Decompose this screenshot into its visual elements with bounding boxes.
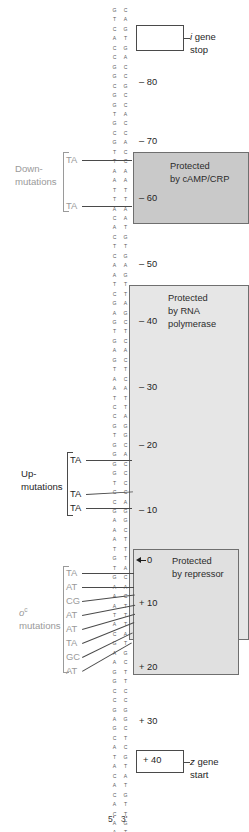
oc-mutation-5: AT	[66, 624, 77, 634]
z-gene-start-word: start	[190, 769, 208, 780]
tick-minus-70: – 70	[139, 136, 157, 146]
oc-mutation-2: AT	[66, 582, 77, 592]
up-mutation-ta-3: TA	[70, 503, 81, 513]
up-mutation-connector-3	[86, 508, 132, 509]
oc-mutation-4: AT	[66, 610, 77, 620]
tick-plus-30: + 30	[139, 716, 157, 726]
dna-bottom-strand: C A G T G A C C G C C A C C A C C A A T …	[120, 6, 131, 832]
tick-minus-30: – 30	[139, 382, 157, 392]
oc-mutation-3: CG	[66, 596, 80, 606]
z-gene-start-label: z genestart	[190, 755, 219, 781]
tick-minus-80: – 80	[139, 77, 157, 87]
tick-minus-60: – 60	[139, 193, 157, 203]
down-mutation-connector-1	[82, 160, 132, 161]
oc-mutation-connector-2	[82, 587, 134, 588]
z-gene-word: gene	[195, 756, 219, 767]
up-mutation-ta-2: TA	[70, 489, 81, 499]
tick-plus-40: + 40	[143, 755, 161, 765]
tick-minus-20: – 20	[139, 440, 157, 450]
down-mutation-ta-2: TA	[66, 201, 77, 211]
up-mutation-connector-1	[86, 460, 132, 461]
oc-mutations-word: mutations	[19, 620, 61, 631]
oc-mutation-8: AT	[66, 666, 77, 676]
tick-plus-20: + 20	[139, 662, 157, 672]
figure-canvas: Protected by cAMP/CRP Protected by RNA p…	[0, 0, 249, 832]
oc-mutation-1: TA	[66, 568, 77, 578]
protection-label-camp-crp: Protected by cAMP/CRP	[170, 160, 229, 186]
protection-label-rna-polymerase: Protected by RNA polymerase	[168, 292, 216, 332]
i-gene-word: gene	[192, 31, 216, 42]
oc-mutations-title: ocmutations	[19, 604, 61, 632]
oc-mutation-7: GC	[66, 652, 80, 662]
oc-mutation-connector-1	[82, 573, 134, 574]
i-gene-stop-label: i genestop	[190, 30, 216, 56]
down-mutation-ta-1: TA	[66, 155, 77, 165]
dna-top-strand: G T C A C C G G C G G T G C G T T A A T …	[109, 6, 120, 832]
transcription-start-arrow-tail	[140, 560, 146, 561]
protection-label-repressor: Protected by repressor	[172, 555, 224, 581]
tick-minus-50: – 50	[139, 259, 157, 269]
i-gene-stop-word: stop	[190, 44, 208, 55]
strand-label-3-prime: 3'	[121, 814, 127, 824]
tick-minus-40: – 40	[139, 316, 157, 326]
i-gene-stop-bracket	[136, 25, 184, 51]
up-mutation-ta-1: TA	[70, 455, 81, 465]
up-mutations-title: Up- mutations	[21, 468, 63, 493]
oc-mutation-6: TA	[66, 638, 77, 648]
down-mutation-connector-2	[82, 206, 132, 207]
oc-mutations-superscript: c	[24, 606, 27, 613]
tick-minus-10: – 10	[139, 505, 157, 515]
tick-zero: 0	[147, 555, 152, 565]
down-mutations-title: Down- mutations	[15, 163, 57, 188]
strand-label-5-prime: 5'	[108, 814, 114, 824]
tick-plus-10: + 10	[139, 598, 157, 608]
